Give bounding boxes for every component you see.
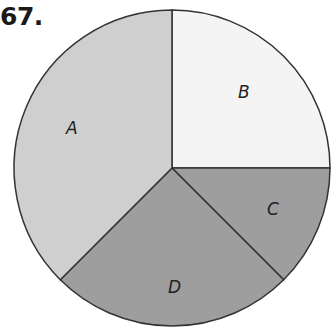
label-c: C [267,199,279,219]
label-a: A [65,118,78,138]
label-d: D [168,277,181,297]
slice-b [172,10,330,168]
label-b: B [238,82,250,102]
pie-chart: A B C D [0,0,333,330]
